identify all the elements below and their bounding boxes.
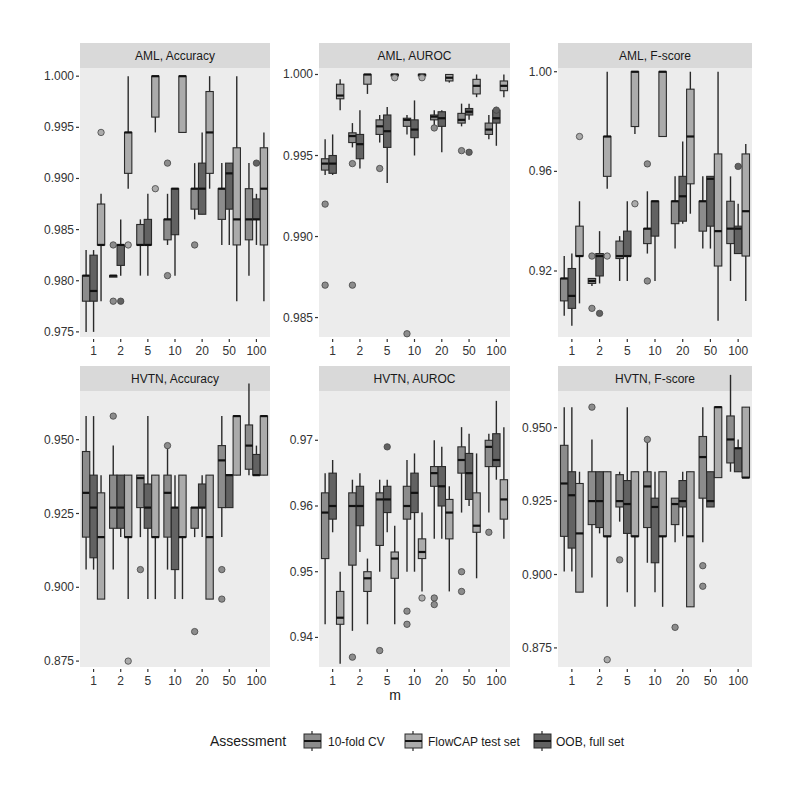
facet-panel: AML, Accuracy0.9750.9800.9850.9900.9951.… (44, 43, 270, 358)
x-tick-label: 5 (145, 344, 152, 358)
facet-panel: HVTN, AUROC0.940.950.960.97125102050100 (290, 366, 510, 688)
x-tick-label: 100 (728, 674, 748, 688)
box-flowcap (742, 407, 749, 477)
box-flowcap (687, 472, 694, 607)
x-tick-label: 20 (195, 674, 209, 688)
outlier-point (604, 253, 610, 259)
facet-panel: AML, F-score0.920.961.00125102050100 (529, 43, 752, 358)
outlier-point (458, 588, 464, 594)
y-tick-label: 0.950 (44, 433, 74, 447)
outlier-point (349, 654, 355, 660)
outlier-point (672, 624, 678, 630)
y-tick-label: 0.985 (44, 223, 74, 237)
y-tick-label: 0.97 (290, 433, 314, 447)
outlier-point (191, 242, 197, 248)
outlier-point (458, 569, 464, 575)
x-tick-label: 2 (357, 674, 364, 688)
box-flowcap (391, 74, 398, 80)
outlier-point (735, 163, 741, 169)
box-flowcap (260, 416, 267, 475)
box-oob (226, 475, 233, 507)
facet-title: HVTN, AUROC (373, 372, 455, 386)
outlier-point (118, 298, 124, 304)
y-tick-label: 0.990 (44, 171, 74, 185)
legend-key-flowcap (405, 731, 422, 751)
outlier-point (152, 185, 158, 191)
y-tick-label: 0.96 (290, 499, 314, 513)
y-tick-label: 0.995 (283, 149, 313, 163)
outlier-point (632, 201, 638, 207)
outlier-point (404, 331, 410, 337)
legend-label: OOB, full set (556, 735, 625, 749)
outlier-point (700, 563, 706, 569)
y-tick-label: 0.900 (522, 568, 552, 582)
outlier-point (376, 647, 382, 653)
x-tick-label: 1 (329, 674, 336, 688)
x-tick-label: 50 (462, 674, 476, 688)
y-tick-label: 0.900 (44, 580, 74, 594)
x-tick-label: 100 (246, 344, 266, 358)
outlier-point (384, 444, 390, 450)
facet-title: AML, F-score (619, 49, 691, 63)
outlier-point (219, 566, 225, 572)
x-tick-label: 50 (462, 344, 476, 358)
outlier-point (322, 282, 328, 288)
box-flowcap (233, 416, 240, 475)
x-axis-title: m (389, 687, 401, 703)
outlier-point (419, 595, 425, 601)
outlier-point (125, 658, 131, 664)
x-tick-label: 1 (90, 344, 97, 358)
outlier-point (98, 129, 104, 135)
x-tick-label: 2 (357, 344, 364, 358)
outlier-point (644, 161, 650, 167)
outlier-point (431, 595, 437, 601)
box-oob (117, 475, 124, 537)
box-oob (596, 472, 603, 534)
x-tick-label: 10 (408, 344, 422, 358)
x-tick-label: 10 (648, 674, 662, 688)
legend-title: Assessment (210, 733, 286, 749)
x-tick-label: 20 (195, 344, 209, 358)
y-tick-label: 0.995 (44, 120, 74, 134)
outlier-point (589, 404, 595, 410)
box-flowcap (418, 74, 425, 80)
outlier-point (110, 242, 116, 248)
y-tick-label: 0.94 (290, 630, 314, 644)
y-tick-label: 1.000 (283, 67, 313, 81)
x-tick-label: 20 (676, 674, 690, 688)
facet-panel: HVTN, F-score0.8750.9000.9250.9501251020… (522, 366, 752, 688)
x-tick-label: 100 (246, 674, 266, 688)
x-tick-label: 2 (596, 674, 603, 688)
y-tick-label: 0.985 (283, 311, 313, 325)
outlier-point (604, 656, 610, 662)
outlier-point (110, 413, 116, 419)
outlier-point (589, 253, 595, 259)
x-tick-label: 1 (90, 674, 97, 688)
box-flowcap (206, 475, 213, 599)
outlier-point (322, 201, 328, 207)
x-tick-label: 20 (676, 344, 690, 358)
outlier-point (376, 165, 382, 171)
outlier-point (589, 305, 595, 311)
box-flowcap (179, 76, 186, 132)
outlier-point (458, 147, 464, 153)
y-tick-label: 0.950 (522, 421, 552, 435)
x-tick-label: 50 (223, 674, 237, 688)
outlier-point (493, 107, 499, 113)
outlier-point (700, 583, 706, 589)
y-tick-label: 0.925 (44, 507, 74, 521)
x-tick-label: 5 (624, 674, 631, 688)
legend: Assessment10-fold CVFlowCAP test setOOB,… (210, 731, 625, 751)
x-tick-label: 2 (117, 674, 124, 688)
x-tick-label: 10 (648, 344, 662, 358)
outlier-point (404, 621, 410, 627)
x-tick-label: 2 (117, 344, 124, 358)
y-tick-label: 0.95 (290, 565, 314, 579)
y-tick-label: 1.00 (529, 65, 553, 79)
facet-title: HVTN, Accuracy (131, 372, 219, 386)
box-oob (707, 472, 714, 507)
outlier-point (164, 442, 170, 448)
outlier-point (644, 278, 650, 284)
legend-label: FlowCAP test set (428, 735, 520, 749)
legend-key-oob (534, 731, 551, 751)
